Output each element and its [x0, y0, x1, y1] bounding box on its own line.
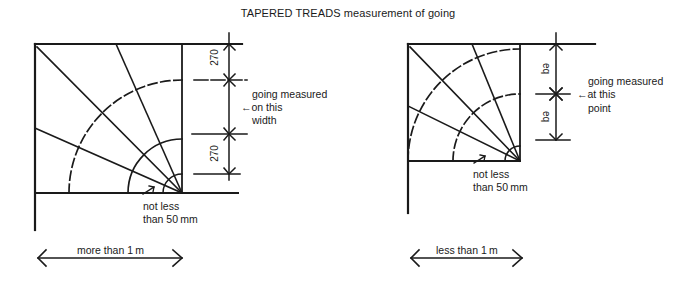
left-tread-line-2 — [116, 44, 182, 193]
left-tread-line-1 — [37, 47, 182, 193]
left-span-label: more than 1 m — [77, 244, 144, 256]
right-min-width-line1: not less — [473, 168, 509, 180]
left-note-line2: ←on this — [241, 101, 282, 113]
right-note-line1: going measured — [588, 75, 663, 87]
left-min-width-line1: not less — [143, 200, 179, 212]
right-min-width-line2: than 50 mm — [473, 181, 528, 193]
right-span-label: less than 1 m — [436, 244, 498, 256]
right-note-line3: point — [588, 102, 611, 114]
left-tread-line-3 — [35, 128, 182, 193]
right-dimension-upper: eq — [541, 63, 552, 74]
left-dimension-upper: 270 — [209, 49, 220, 66]
right-tread-line-3 — [408, 106, 520, 161]
stair-diagrams — [0, 0, 696, 283]
left-dimension-lower: 270 — [209, 145, 220, 162]
right-dimension-lower: eq — [541, 111, 552, 122]
left-note-line3: width — [252, 114, 277, 126]
right-tread-line-2 — [472, 44, 520, 161]
left-note-line1: going measured — [252, 88, 327, 100]
right-note-line2: ←at this — [577, 88, 616, 100]
left-min-width-line2: than 50 mm — [143, 213, 198, 225]
right-stair-plan — [408, 33, 595, 266]
